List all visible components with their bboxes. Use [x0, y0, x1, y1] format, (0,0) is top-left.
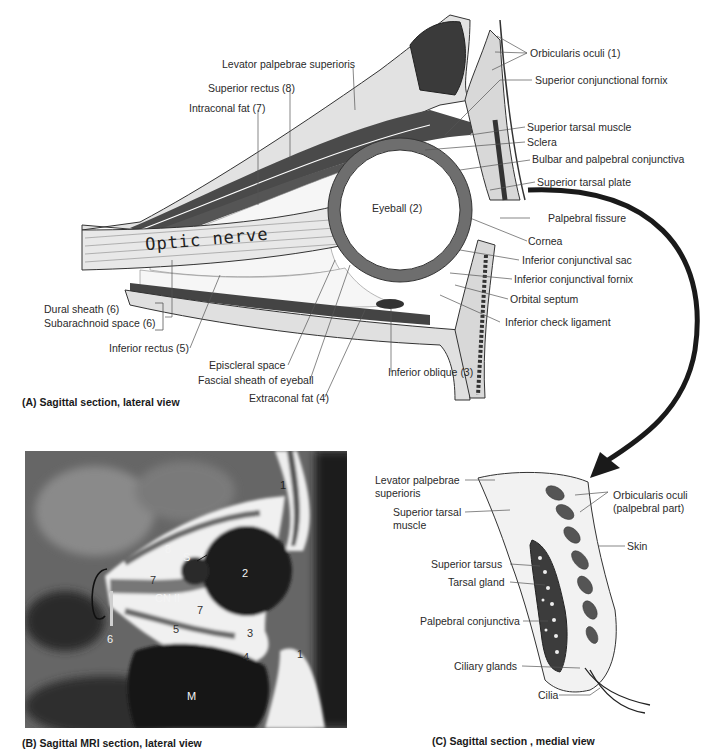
label-c-sup-tarsal-muscle-2: muscle — [393, 519, 426, 531]
label-c-orbicularis-1: Orbicularis oculi — [613, 489, 688, 501]
panel-c-illustration — [0, 0, 711, 755]
label-c-levator-1: Levator palpebrae — [375, 474, 460, 486]
label-c-orbicularis-2: (palpebral part) — [613, 502, 684, 514]
label-c-levator-2: superioris — [375, 487, 421, 499]
label-c-skin: Skin — [627, 540, 647, 552]
caption-panel-c: (C) Sagittal section , medial view — [432, 735, 595, 747]
label-c-superior-tarsus: Superior tarsus — [431, 558, 502, 570]
label-c-palpebral-conjunctiva: Palpebral conjunctiva — [420, 615, 520, 627]
label-c-ciliary-glands: Ciliary glands — [454, 660, 517, 672]
label-c-cilia: Cilia — [538, 689, 558, 701]
label-c-sup-tarsal-muscle-1: Superior tarsal — [393, 506, 461, 518]
label-c-tarsal-gland: Tarsal gland — [448, 576, 505, 588]
